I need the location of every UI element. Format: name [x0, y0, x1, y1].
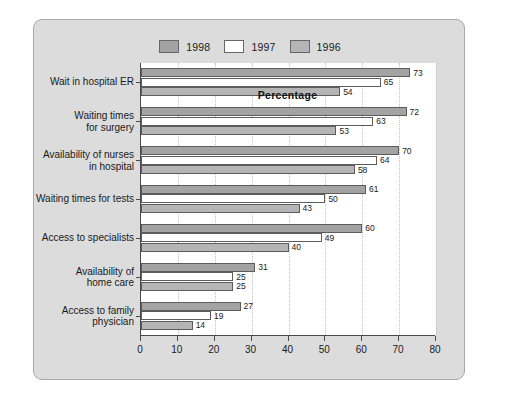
- bar-group: 604940Access to specialists: [141, 218, 436, 257]
- bar-1997-2[interactable]: [141, 156, 377, 165]
- bar-1998-2[interactable]: [141, 146, 399, 155]
- category-tick: [136, 238, 141, 239]
- bar-1997-0[interactable]: [141, 78, 381, 87]
- bar-value-label: 14: [193, 320, 205, 330]
- bar-row: 65: [141, 78, 436, 87]
- legend-entry: 1996: [290, 40, 341, 53]
- bar-row: 43: [141, 204, 436, 213]
- bar-1998-4[interactable]: [141, 224, 362, 233]
- bar-row: 73: [141, 68, 436, 77]
- bar-1998-1[interactable]: [141, 107, 407, 116]
- bar-1998-6[interactable]: [141, 302, 241, 311]
- bar-value-label: 53: [336, 126, 348, 136]
- x-tick-label: 30: [245, 344, 256, 355]
- bar-value-label: 64: [377, 155, 389, 165]
- x-tick-label: 40: [282, 344, 293, 355]
- x-tick-20: [214, 336, 215, 341]
- category-label: Access to specialists: [0, 232, 134, 244]
- x-tick-label: 0: [137, 344, 143, 355]
- x-tick-50: [324, 336, 325, 341]
- category-label: Availability of nurses in hospital: [0, 149, 134, 172]
- category-label: Availability of home care: [0, 265, 134, 288]
- category-tick: [136, 121, 141, 122]
- bar-1996-6[interactable]: [141, 321, 193, 330]
- bar-1997-6[interactable]: [141, 311, 211, 320]
- bar-1996-4[interactable]: [141, 243, 289, 252]
- bar-row: 70: [141, 146, 436, 155]
- x-tick-label: 20: [208, 344, 219, 355]
- legend-label: 1996: [317, 41, 341, 53]
- category-label: Wait in hospital ER: [0, 77, 134, 89]
- category-label: Waiting times for surgery: [0, 110, 134, 133]
- bar-row: 60: [141, 224, 436, 233]
- bar-value-label: 50: [325, 194, 337, 204]
- bar-1998-0[interactable]: [141, 68, 410, 77]
- bar-value-label: 49: [322, 233, 334, 243]
- bar-1998-3[interactable]: [141, 185, 366, 194]
- bar-row: 49: [141, 233, 436, 242]
- x-tick-30: [251, 336, 252, 341]
- bar-1997-3[interactable]: [141, 194, 325, 203]
- bar-group: 706458Availability of nurses in hospital: [141, 141, 436, 180]
- bar-row: 25: [141, 282, 436, 291]
- bar-value-label: 19: [211, 311, 223, 321]
- x-tick-10: [177, 336, 178, 341]
- x-tick-80: [435, 336, 436, 341]
- bar-value-label: 27: [241, 301, 253, 311]
- x-tick-label: 70: [393, 344, 404, 355]
- bar-value-label: 58: [355, 165, 367, 175]
- bar-1996-2[interactable]: [141, 165, 355, 174]
- category-label: Waiting times for tests: [0, 193, 134, 205]
- category-tick: [136, 199, 141, 200]
- legend-swatch-1997: [224, 40, 244, 53]
- bar-1996-5[interactable]: [141, 282, 233, 291]
- bar-1996-3[interactable]: [141, 204, 300, 213]
- bar-value-label: 25: [233, 281, 245, 291]
- bar-row: 40: [141, 243, 436, 252]
- category-tick: [136, 277, 141, 278]
- bar-value-label: 63: [373, 116, 385, 126]
- x-tick-40: [288, 336, 289, 341]
- plot-wrapper: 736554Wait in hospital ER726353Waiting t…: [140, 63, 435, 335]
- bar-row: 53: [141, 126, 436, 135]
- x-tick-60: [361, 336, 362, 341]
- category-tick: [136, 160, 141, 161]
- bar-1996-1[interactable]: [141, 126, 336, 135]
- legend-label: 1997: [251, 41, 275, 53]
- legend-swatch-1998: [159, 40, 179, 53]
- bar-group: 312525Availability of home care: [141, 257, 436, 296]
- bar-value-label: 25: [233, 272, 245, 282]
- bar-row: 31: [141, 263, 436, 272]
- bar-group: 615043Waiting times for tests: [141, 180, 436, 219]
- bar-row: 61: [141, 185, 436, 194]
- category-tick: [136, 316, 141, 317]
- bar-1998-5[interactable]: [141, 263, 255, 272]
- bar-row: 19: [141, 311, 436, 320]
- x-tick-label: 50: [319, 344, 330, 355]
- x-axis-title: Percentage: [140, 89, 435, 101]
- x-tick-0: [140, 336, 141, 341]
- plot-area: 736554Wait in hospital ER726353Waiting t…: [140, 63, 436, 335]
- bar-value-label: 60: [362, 223, 374, 233]
- bar-row: 64: [141, 156, 436, 165]
- bar-value-label: 73: [410, 68, 422, 78]
- legend-entry: 1997: [224, 40, 275, 53]
- bar-1997-4[interactable]: [141, 233, 322, 242]
- bar-row: 72: [141, 107, 436, 116]
- bar-group: 726353Waiting times for surgery: [141, 102, 436, 141]
- chart-legend: 199819971996: [34, 40, 466, 53]
- bar-value-label: 65: [381, 77, 393, 87]
- bar-1997-5[interactable]: [141, 272, 233, 281]
- x-tick-label: 10: [171, 344, 182, 355]
- x-axis: 01020304050607080: [140, 335, 435, 336]
- bar-row: 58: [141, 165, 436, 174]
- bar-row: 63: [141, 117, 436, 126]
- gridline-80: [436, 63, 437, 335]
- legend-swatch-1996: [290, 40, 310, 53]
- bar-value-label: 61: [366, 184, 378, 194]
- bar-1997-1[interactable]: [141, 117, 373, 126]
- bar-row: 27: [141, 302, 436, 311]
- bar-value-label: 43: [300, 203, 312, 213]
- bar-row: 14: [141, 321, 436, 330]
- legend-entry: 1998: [159, 40, 210, 53]
